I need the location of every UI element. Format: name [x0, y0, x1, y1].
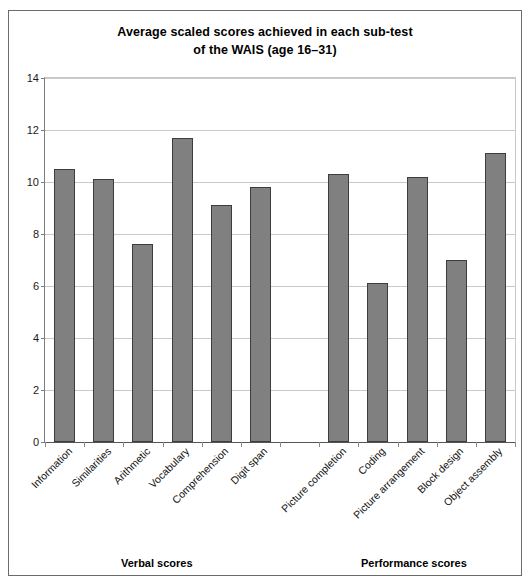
- x-tick-mark: [163, 442, 164, 447]
- y-tick-mark: [41, 182, 45, 183]
- chart-title-line-2: of the WAIS (age 16–31): [9, 41, 521, 59]
- x-axis-label: Information: [30, 447, 76, 493]
- x-tick-mark: [515, 442, 516, 447]
- x-axis-label: Coding: [357, 447, 389, 479]
- gridline: [45, 286, 515, 287]
- chart-title: Average scaled scores achieved in each s…: [9, 23, 521, 59]
- y-tick-label: 14: [27, 72, 39, 84]
- bar: [328, 174, 349, 442]
- bar: [54, 169, 75, 442]
- gridline: [45, 234, 515, 235]
- x-axis-label: Similarities: [71, 447, 115, 491]
- group-caption-verbal: Verbal scores: [121, 557, 193, 569]
- bar: [132, 244, 153, 442]
- x-axis-label: Picture completion: [281, 447, 351, 517]
- x-tick-mark: [319, 442, 320, 447]
- x-tick-mark: [280, 442, 281, 447]
- x-tick-mark: [84, 442, 85, 447]
- bar: [407, 177, 428, 442]
- x-tick-mark: [437, 442, 438, 447]
- y-tick-label: 0: [33, 436, 39, 448]
- y-tick-mark: [41, 390, 45, 391]
- y-tick-mark: [41, 78, 45, 79]
- x-tick-mark: [123, 442, 124, 447]
- bar: [485, 153, 506, 442]
- y-tick-mark: [41, 234, 45, 235]
- x-tick-mark: [398, 442, 399, 447]
- gridline: [45, 182, 515, 183]
- x-tick-mark: [358, 442, 359, 447]
- bar: [250, 187, 271, 442]
- plot-area: 02468101214: [44, 77, 516, 443]
- x-axis-label: Digit span: [230, 447, 272, 489]
- bar: [172, 138, 193, 442]
- bar: [211, 205, 232, 442]
- gridline: [45, 338, 515, 339]
- y-tick-label: 10: [27, 176, 39, 188]
- chart-title-line-1: Average scaled scores achieved in each s…: [9, 23, 521, 41]
- x-tick-mark: [202, 442, 203, 447]
- y-tick-mark: [41, 130, 45, 131]
- y-tick-label: 2: [33, 384, 39, 396]
- gridline: [45, 78, 515, 79]
- y-tick-mark: [41, 286, 45, 287]
- y-tick-label: 8: [33, 228, 39, 240]
- x-tick-mark: [45, 442, 46, 447]
- chart-figure: Average scaled scores achieved in each s…: [8, 10, 522, 576]
- y-tick-mark: [41, 338, 45, 339]
- group-caption-performance: Performance scores: [361, 557, 467, 569]
- y-tick-label: 12: [27, 124, 39, 136]
- bar: [446, 260, 467, 442]
- gridline: [45, 130, 515, 131]
- bar: [367, 283, 388, 442]
- y-tick-label: 4: [33, 332, 39, 344]
- y-tick-label: 6: [33, 280, 39, 292]
- x-tick-mark: [241, 442, 242, 447]
- gridline: [45, 390, 515, 391]
- x-tick-mark: [476, 442, 477, 447]
- bar: [93, 179, 114, 442]
